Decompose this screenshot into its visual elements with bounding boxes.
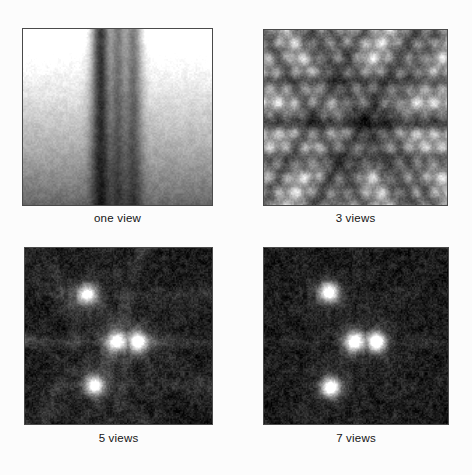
panel-5-views-caption: 5 views [24, 432, 213, 444]
panel-3-views-frame [263, 29, 448, 206]
panel-7-views-caption: 7 views [263, 432, 449, 444]
panel-one-view-caption: one view [22, 212, 213, 224]
panel-5-views-image [25, 248, 212, 424]
panel-7-views-image [264, 248, 448, 424]
panel-3-views-caption: 3 views [263, 212, 448, 224]
panel-one-view-image [23, 29, 212, 205]
panel-7-views-frame [263, 247, 449, 425]
panel-5-views-frame [24, 247, 213, 425]
figure-container: one view 3 views 5 views 7 views [0, 0, 472, 475]
panel-3-views-image [264, 30, 447, 205]
panel-one-view-frame [22, 28, 213, 206]
